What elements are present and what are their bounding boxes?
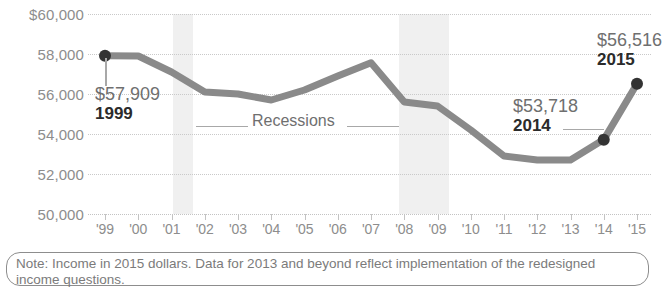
x-tick bbox=[604, 214, 605, 220]
x-tick bbox=[571, 214, 572, 220]
x-tick bbox=[238, 214, 239, 220]
recessions-label: Recessions bbox=[252, 112, 335, 130]
leader-line-1999 bbox=[105, 58, 107, 86]
x-tick-label: '04 bbox=[262, 221, 280, 237]
chart-root: $60,000 58,000 56,000 54,000 52,000 50,0… bbox=[0, 0, 669, 293]
x-tick-label: '00 bbox=[129, 221, 147, 237]
y-tick-label: $60,000 bbox=[6, 6, 84, 23]
annotation-value: $57,909 bbox=[95, 84, 160, 104]
x-tick-label: '07 bbox=[362, 221, 380, 237]
x-tick bbox=[205, 214, 206, 220]
x-tick bbox=[172, 214, 173, 220]
y-axis: $60,000 58,000 56,000 54,000 52,000 50,0… bbox=[0, 14, 84, 214]
x-tick bbox=[105, 214, 106, 220]
x-tick-label: '06 bbox=[329, 221, 347, 237]
x-tick bbox=[438, 214, 439, 220]
x-axis: '99'00'01'02'03'04'05'06'07'08'09'10'11'… bbox=[88, 214, 651, 244]
x-tick-label: '14 bbox=[595, 221, 613, 237]
x-tick-label: '11 bbox=[495, 221, 512, 237]
x-tick-label: '99 bbox=[96, 221, 114, 237]
x-tick-label: '12 bbox=[528, 221, 546, 237]
x-tick bbox=[271, 214, 272, 220]
x-tick-label: '09 bbox=[428, 221, 446, 237]
leader-line-recessions-right bbox=[347, 126, 399, 127]
x-tick-label: '10 bbox=[462, 221, 480, 237]
x-tick-label: '01 bbox=[162, 221, 180, 237]
x-tick-label: '05 bbox=[295, 221, 313, 237]
leader-line-recessions-left bbox=[196, 126, 248, 127]
x-tick bbox=[637, 214, 638, 220]
y-tick-label: 58,000 bbox=[6, 46, 84, 63]
x-tick-label: '13 bbox=[561, 221, 579, 237]
annotation-2014: $53,718 2014 bbox=[513, 96, 578, 136]
data-point-marker bbox=[631, 78, 643, 90]
x-tick-label: '15 bbox=[628, 221, 646, 237]
annotation-year: 2015 bbox=[597, 50, 662, 70]
x-tick bbox=[471, 214, 472, 220]
x-tick bbox=[371, 214, 372, 220]
note-box: Note: Income in 2015 dollars. Data for 2… bbox=[6, 252, 649, 286]
annotation-year: 1999 bbox=[95, 104, 160, 124]
data-point-marker bbox=[598, 134, 610, 146]
x-tick-label: '02 bbox=[196, 221, 214, 237]
x-tick bbox=[338, 214, 339, 220]
y-tick-label: 50,000 bbox=[6, 206, 84, 223]
annotation-year: 2014 bbox=[513, 116, 578, 136]
annotation-value: $53,718 bbox=[513, 96, 578, 116]
x-tick-label: '08 bbox=[395, 221, 413, 237]
x-tick bbox=[404, 214, 405, 220]
x-tick-label: '03 bbox=[229, 221, 247, 237]
y-tick-label: 52,000 bbox=[6, 166, 84, 183]
x-tick bbox=[504, 214, 505, 220]
x-tick bbox=[305, 214, 306, 220]
y-tick-label: 54,000 bbox=[6, 126, 84, 143]
x-tick bbox=[537, 214, 538, 220]
annotation-2015: $56,516 2015 bbox=[597, 30, 662, 70]
x-tick bbox=[138, 214, 139, 220]
note-text: Note: Income in 2015 dollars. Data for 2… bbox=[16, 256, 639, 287]
annotation-value: $56,516 bbox=[597, 30, 662, 50]
y-tick-label: 56,000 bbox=[6, 86, 84, 103]
annotation-1999: $57,909 1999 bbox=[95, 84, 160, 124]
